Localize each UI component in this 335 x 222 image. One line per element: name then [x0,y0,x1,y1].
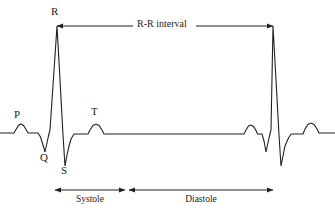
t-wave-label: T [91,106,98,117]
p-wave-label: P [14,109,20,120]
rr-interval-label: R-R interval [134,19,190,29]
s-wave-label: S [61,165,67,176]
diastole-label: Diastole [165,194,237,204]
ecg-waveform-svg [0,0,335,222]
q-wave-label: Q [40,152,48,163]
ecg-trace [0,26,335,166]
r-wave-label: R [51,6,58,17]
systole-label: Systole [62,194,118,204]
ecg-diagram: P Q R S T R-R interval Systole Diastole [0,0,335,222]
